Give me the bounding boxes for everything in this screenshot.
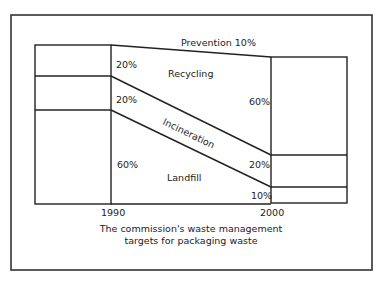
waste-management-diagram: Prevention 10% Recycling Incineration La… bbox=[0, 0, 386, 282]
right-incineration-percent: 20% bbox=[249, 159, 270, 170]
bar-2000 bbox=[271, 57, 347, 203]
right-recycling-percent: 60% bbox=[249, 96, 270, 107]
incineration-label: Incineration bbox=[161, 116, 217, 151]
prevention-label: Prevention 10% bbox=[181, 37, 256, 48]
left-incineration-percent: 20% bbox=[116, 94, 137, 105]
right-landfill-percent: 10% bbox=[251, 190, 272, 201]
bar-1990 bbox=[35, 45, 111, 204]
recycling-label: Recycling bbox=[168, 68, 213, 79]
year-1990-label: 1990 bbox=[101, 207, 125, 218]
left-landfill-percent: 60% bbox=[117, 159, 138, 170]
caption-line-1: The commission's waste management bbox=[99, 223, 283, 234]
caption-line-2: targets for packaging waste bbox=[124, 235, 257, 246]
landfill-label: Landfill bbox=[167, 172, 201, 183]
year-2000-label: 2000 bbox=[260, 207, 284, 218]
left-recycling-percent: 20% bbox=[116, 59, 137, 70]
